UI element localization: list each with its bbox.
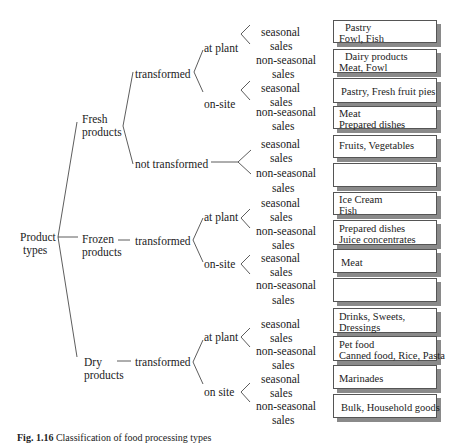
root-label: Product types	[20, 231, 56, 257]
product-box-frozen-plant-seasonal: Ice Cream Fish	[333, 192, 437, 215]
frozen-transformed-label: transformed	[135, 235, 191, 248]
box-line: Dressings	[339, 322, 433, 333]
box-line: Marinades	[339, 373, 433, 384]
box-line: Meat	[339, 108, 433, 119]
root-label-line2: types	[20, 244, 56, 257]
product-box-fresh-plant-nonseasonal: Dairy products Meat, Fowl	[333, 49, 437, 73]
sales-non-seasonal: non-seasonal	[256, 54, 316, 67]
fresh-transformed-label: transformed	[135, 68, 191, 81]
category-fresh-line2: products	[82, 126, 122, 139]
sales-non-seasonal: non-seasonal	[256, 279, 316, 292]
dry-on-site-label: on site	[204, 386, 234, 399]
category-frozen-line2: products	[82, 246, 122, 259]
box-line: Prepared dishes	[339, 223, 433, 234]
box-line: Pet food	[339, 339, 433, 350]
dry-transformed-label: transformed	[135, 356, 191, 369]
sales-word: sales	[272, 182, 294, 195]
sales-word: sales	[270, 266, 292, 279]
product-box-fresh-onsite-seasonal: Pastry, Fresh fruit pies	[333, 78, 437, 103]
box-line: Canned food, Rice, Pasta	[339, 350, 433, 361]
box-line: Ice Cream	[339, 194, 433, 205]
product-box-frozen-onsite-seasonal: Meat	[333, 249, 437, 273]
product-box-frozen-plant-nonseasonal: Prepared dishes Juice concentrates	[333, 220, 437, 245]
box-line: Fowl, Fish	[339, 33, 433, 44]
sales-word: sales	[272, 239, 294, 252]
sales-word: sales	[270, 211, 292, 224]
frozen-on-site-label: on-site	[204, 258, 235, 271]
figure-caption-label: Fig. 1.16	[17, 432, 53, 443]
sales-non-seasonal: non-seasonal	[256, 225, 316, 238]
box-line: Pastry	[339, 22, 433, 33]
sales-seasonal: seasonal	[261, 82, 300, 95]
sales-seasonal: seasonal	[261, 26, 300, 39]
box-line: Meat, Fowl	[339, 62, 433, 73]
category-frozen-line1: Frozen	[82, 233, 122, 246]
category-dry: Dry products	[84, 356, 124, 382]
fresh-on-site-label: on-site	[204, 98, 235, 111]
sales-non-seasonal: non-seasonal	[256, 345, 316, 358]
sales-non-seasonal: non-seasonal	[256, 106, 316, 119]
category-fresh-line1: Fresh	[82, 113, 122, 126]
box-line: Fruits, Vegetables	[339, 140, 433, 151]
figure-caption: Fig. 1.16 Classification of food process…	[17, 432, 211, 443]
product-box-fresh-plant-seasonal: Pastry Fowl, Fish	[333, 20, 437, 43]
sales-word: sales	[272, 68, 294, 81]
product-box-fresh-raw-nonseasonal	[333, 163, 437, 187]
product-box-dry-plant-nonseasonal: Pet food Canned food, Rice, Pasta	[333, 336, 437, 361]
box-line: Meat	[339, 257, 433, 268]
box-line: Prepared dishes	[339, 119, 433, 130]
sales-word: sales	[272, 359, 294, 372]
product-box-fresh-onsite-nonseasonal: Meat Prepared dishes	[333, 106, 437, 129]
frozen-at-plant-label: at plant	[204, 211, 238, 224]
sales-seasonal: seasonal	[261, 373, 300, 386]
figure-caption-text: Classification of food processing types	[56, 432, 212, 443]
root-label-line1: Product	[20, 231, 56, 244]
sales-word: sales	[270, 332, 292, 345]
product-box-dry-onsite-nonseasonal: Bulk, Household goods	[333, 394, 437, 418]
sales-non-seasonal: non-seasonal	[256, 167, 316, 180]
box-line: Drinks, Sweets,	[339, 311, 433, 322]
product-box-fresh-raw-seasonal: Fruits, Vegetables	[333, 135, 437, 158]
dry-at-plant-label: at plant	[204, 331, 238, 344]
box-line: Juice concentrates	[339, 234, 433, 245]
sales-word: sales	[272, 294, 294, 307]
category-dry-line1: Dry	[84, 356, 124, 369]
sales-word: sales	[270, 387, 292, 400]
sales-seasonal: seasonal	[261, 252, 300, 265]
sales-seasonal: seasonal	[261, 318, 300, 331]
fresh-at-plant-label: at plant	[204, 42, 238, 55]
sales-non-seasonal: non-seasonal	[256, 400, 316, 413]
product-box-dry-onsite-seasonal: Marinades	[333, 365, 437, 389]
sales-word: sales	[272, 120, 294, 133]
box-line: Dairy products	[339, 51, 433, 62]
category-dry-line2: products	[84, 369, 124, 382]
fresh-not-transformed-label: not transformed	[135, 158, 208, 171]
sales-word: sales	[270, 40, 292, 53]
box-line: Pastry, Fresh fruit pies	[339, 86, 433, 97]
sales-word: sales	[270, 152, 292, 165]
sales-seasonal: seasonal	[261, 197, 300, 210]
product-box-frozen-onsite-nonseasonal	[333, 278, 437, 302]
category-fresh: Fresh products	[82, 113, 122, 139]
box-line: Fish	[339, 205, 433, 216]
sales-seasonal: seasonal	[261, 138, 300, 151]
box-line: Bulk, Household goods	[339, 402, 433, 413]
product-box-dry-plant-seasonal: Drinks, Sweets, Dressings	[333, 308, 437, 333]
category-frozen: Frozen products	[82, 233, 122, 259]
sales-word: sales	[272, 414, 294, 427]
